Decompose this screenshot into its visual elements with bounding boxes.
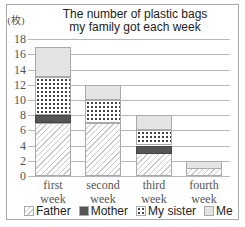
y-tick-label: 10 [8, 94, 26, 106]
y-tick-label: 16 [8, 48, 26, 60]
y-tick-label: 4 [8, 140, 26, 152]
bar-segment-me [186, 161, 222, 169]
gridline [28, 176, 230, 177]
bar-segment-father [35, 123, 71, 176]
x-tick-label: firstweek [28, 178, 78, 206]
y-tick-label: 8 [8, 109, 26, 121]
chart-title-line-2: my family got each week [40, 21, 230, 34]
legend-item-mother: Mother [79, 204, 128, 218]
y-tick-label: 14 [8, 64, 26, 76]
mother-swatch-icon [79, 206, 89, 216]
legend-item-my-sister: My sister [136, 204, 196, 218]
y-tick-label: 18 [8, 33, 26, 45]
bar-segment-father [136, 153, 172, 176]
bar-segment-me [136, 115, 172, 130]
bar-segment-my-sister [85, 100, 121, 123]
legend-item-father: Father [24, 204, 71, 218]
x-tick-label: fourthweek [179, 178, 229, 206]
y-tick-label: 12 [8, 79, 26, 91]
y-tick-label: 2 [8, 155, 26, 167]
father-swatch-icon [24, 206, 34, 216]
y-tick-label: 6 [8, 124, 26, 136]
gridline [28, 39, 230, 40]
bar-segment-my-sister [136, 130, 172, 145]
sister-swatch-icon [136, 206, 146, 216]
bar-segment-father [85, 123, 121, 176]
legend: Father Mother My sister Me [24, 204, 233, 218]
bar-segment-father [186, 168, 222, 176]
bar-segment-my-sister [35, 77, 71, 115]
x-tick-label: secondweek [78, 178, 128, 206]
x-tick-label: thirdweek [129, 178, 179, 206]
y-axis-unit: (枚) [7, 12, 25, 27]
legend-item-me: Me [204, 204, 233, 218]
bar-segment-mother [35, 115, 71, 123]
me-swatch-icon [204, 206, 214, 216]
y-tick-label: 0 [8, 170, 26, 182]
bar-segment-mother [136, 146, 172, 154]
chart-title: The number of plastic bags my family got… [40, 8, 230, 34]
bar-segment-me [35, 47, 71, 77]
bar-segment-me [85, 85, 121, 100]
